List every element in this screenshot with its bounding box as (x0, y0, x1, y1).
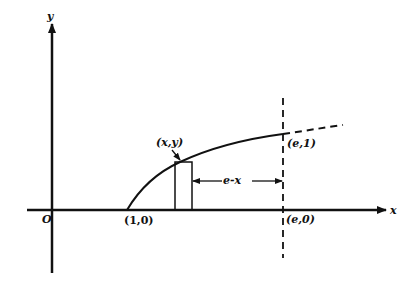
point-label-x-y: (x,y) (156, 136, 183, 149)
log-curve-solid (127, 134, 283, 210)
diagram-canvas: y x O (1,0) (x,y) (e,1) (e,0) e-x (0, 0, 410, 290)
sample-strip-rect (175, 162, 192, 210)
y-axis-label: y (46, 10, 55, 23)
point-label-1-0: (1,0) (124, 214, 154, 227)
sample-point-pointer (172, 150, 180, 160)
point-label-e-0: (e,0) (286, 213, 315, 226)
x-axis-label: x (389, 204, 397, 217)
point-label-e-1: (e,1) (287, 137, 316, 150)
distance-label-e-minus-x: e-x (223, 174, 242, 187)
origin-label: O (42, 213, 52, 226)
log-curve-dashed (283, 125, 343, 134)
